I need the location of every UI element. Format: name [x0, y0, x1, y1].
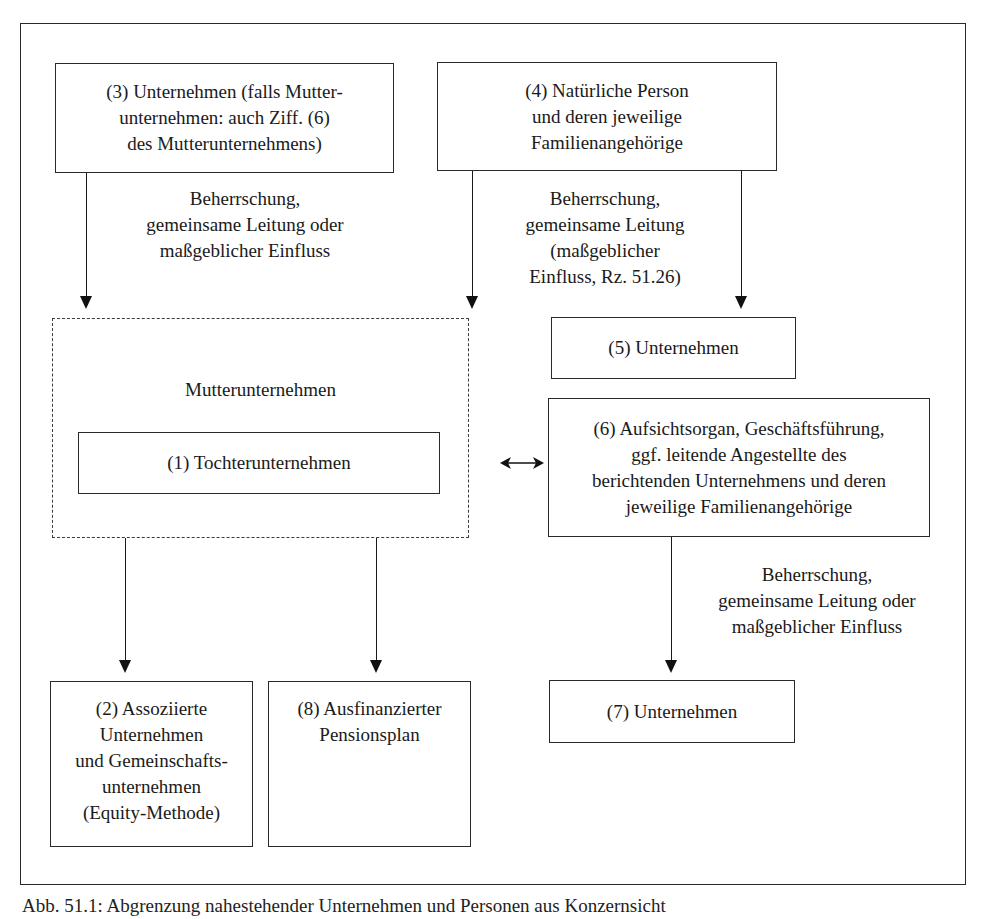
parent-line1: Mutterunternehmen	[52, 377, 469, 403]
node-5-company: (5) Unternehmen	[551, 317, 796, 379]
edge-n4-parent-line	[472, 171, 473, 297]
node-6-text: (6) Aufsichtsorgan, Geschäftsführung, gg…	[592, 416, 886, 520]
arrow-down-icon	[466, 296, 478, 309]
node-2-associates: (2) Assoziierte Unternehmen und Gemeinsc…	[50, 681, 253, 847]
node-7-company: (7) Unternehmen	[549, 680, 795, 743]
node-3-text: (3) Unternehmen (falls Mutter- unternehm…	[106, 79, 343, 157]
node-8-text: (8) Ausfinanzierter Pensionsplan	[297, 696, 441, 748]
node-1-subsidiary: (1) Tochterunternehmen	[78, 432, 440, 494]
edge-label-n6: Beherrschung, gemeinsame Leitung oder ma…	[682, 562, 952, 640]
arrow-down-icon	[735, 296, 747, 309]
edge-label-n4: Beherrschung, gemeinsame Leitung (maßgeb…	[480, 186, 730, 290]
arrow-down-icon	[119, 660, 131, 673]
node-4-text: (4) Natürliche Person und deren jeweilig…	[525, 78, 689, 156]
edge-parent-n8-line	[376, 538, 377, 661]
node-8-pension-plan: (8) Ausfinanzierter Pensionsplan	[268, 681, 471, 847]
edge-parent-n2-line	[125, 538, 126, 661]
edge-label-n3: Beherrschung, gemeinsame Leitung oder ma…	[95, 186, 395, 264]
node-1-text: (1) Tochterunternehmen	[167, 450, 351, 476]
edge-n6-n7-line	[671, 537, 672, 661]
node-5-text: (5) Unternehmen	[608, 335, 738, 361]
node-3-company: (3) Unternehmen (falls Mutter- unternehm…	[55, 63, 394, 173]
bidirectional-arrow-icon	[500, 455, 544, 471]
edge-n3-parent-line	[86, 173, 87, 297]
node-4-natural-person: (4) Natürliche Person und deren jeweilig…	[437, 62, 777, 171]
arrow-down-icon	[80, 296, 92, 309]
arrow-down-icon	[665, 660, 677, 673]
node-6-management: (6) Aufsichtsorgan, Geschäftsführung, gg…	[548, 398, 930, 537]
node-2-text: (2) Assoziierte Unternehmen und Gemeinsc…	[75, 696, 227, 826]
node-7-text: (7) Unternehmen	[607, 699, 737, 725]
edge-n4-n5-line	[741, 171, 742, 297]
arrow-down-icon	[370, 660, 382, 673]
figure-caption: Abb. 51.1: Abgrenzung nahestehender Unte…	[22, 893, 666, 919]
